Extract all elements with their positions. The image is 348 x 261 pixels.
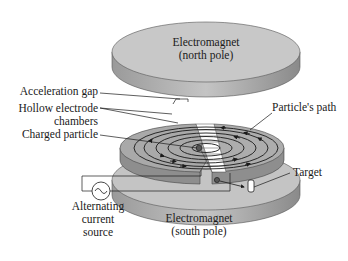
hollow-chambers-label-line1: Hollow electrode <box>0 102 98 115</box>
ac-source-label-line1: Alternating <box>64 200 132 213</box>
target-label: Target <box>293 166 322 179</box>
north-magnet-label-line1: Electromagnet <box>163 36 249 49</box>
ac-source <box>92 182 110 200</box>
charged-particle-label: Charged particle <box>0 128 98 141</box>
ac-source-label-line2: current <box>64 213 132 226</box>
north-magnet-label: Electromagnet (north pole) <box>163 36 249 62</box>
acceleration-gap-label: Acceleration gap <box>0 85 98 98</box>
south-magnet-label-line2: (south pole) <box>156 225 242 238</box>
north-magnet-label-line2: (north pole) <box>163 49 249 62</box>
south-magnet-label-line1: Electromagnet <box>156 212 242 225</box>
exit-particle <box>214 177 219 182</box>
hollow-chambers-label-line2: chambers <box>0 115 98 128</box>
charged-particle <box>196 145 202 151</box>
particles-path-label: Particle's path <box>272 101 336 114</box>
ac-source-label: Alternating current source <box>64 200 132 239</box>
target <box>248 180 254 192</box>
south-magnet-label: Electromagnet (south pole) <box>156 212 242 238</box>
hollow-chambers-label: Hollow electrode chambers <box>0 102 98 128</box>
ac-source-label-line3: source <box>64 226 132 239</box>
